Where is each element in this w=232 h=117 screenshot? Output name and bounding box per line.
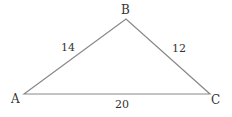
side-label-ab: 14 <box>61 41 75 54</box>
vertex-label-a: A <box>10 92 20 106</box>
side-label-bc: 12 <box>172 42 186 55</box>
vertex-label-c: C <box>211 93 220 107</box>
triangle-abc <box>24 19 210 94</box>
triangle-diagram: A B C 14 12 20 <box>0 0 232 117</box>
vertex-label-b: B <box>121 3 130 17</box>
side-label-ac: 20 <box>115 98 129 111</box>
